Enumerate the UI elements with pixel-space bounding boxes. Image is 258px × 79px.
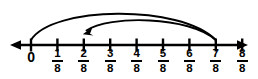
number-line-figure: 0 1 8 2 8 3 8 4 8 5 8 6 8 bbox=[0, 0, 258, 79]
number-line-svg bbox=[0, 0, 258, 79]
backward-jump-arc bbox=[87, 20, 216, 40]
backward-arc-arrowhead-icon bbox=[83, 27, 94, 35]
left-arrowhead-icon bbox=[10, 40, 21, 50]
